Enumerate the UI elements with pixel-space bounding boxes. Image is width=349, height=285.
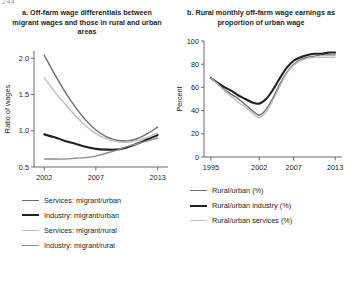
legend-line-swatch <box>190 205 207 207</box>
svg-text:Percent: Percent <box>175 87 184 112</box>
legend-item-label: Rural/urban industry (%) <box>212 201 291 210</box>
legend-item-label: Industry: migrant/urban <box>44 211 119 220</box>
svg-text:100: 100 <box>187 37 199 46</box>
panel-b-plot: 0204060801001995200220072013Percent <box>174 29 348 179</box>
svg-text:2.0: 2.0 <box>19 54 29 63</box>
legend-line-swatch <box>22 245 39 246</box>
svg-text:Ratio of wages: Ratio of wages <box>3 84 12 133</box>
panel-a: a. Off-farm wage differentials between m… <box>0 8 174 253</box>
legend-item-label: Services: migrant/urban <box>44 196 121 205</box>
chart-panels-container: a. Off-farm wage differentials between m… <box>0 8 349 253</box>
legend-item[interactable]: Services: migrant/urban <box>22 193 174 208</box>
legend-line-swatch <box>190 190 207 191</box>
svg-text:2007: 2007 <box>88 173 104 182</box>
svg-text:1.0: 1.0 <box>19 126 29 135</box>
svg-text:60: 60 <box>191 83 199 92</box>
legend-item-label: Rural/urban (%) <box>212 186 264 195</box>
svg-text:0.5: 0.5 <box>19 162 29 171</box>
legend-line-swatch <box>22 200 39 201</box>
chart-b-svg: 0204060801001995200220072013Percent <box>174 29 348 179</box>
panel-b: b. Rural monthly off-farm wage earnings … <box>174 8 348 253</box>
panel-a-legend: Services: migrant/urbanIndustry: migrant… <box>0 193 174 253</box>
legend-line-swatch <box>22 214 39 216</box>
legend-item[interactable]: Services: migrant/rural <box>22 223 174 238</box>
panel-b-legend: Rural/urban (%)Rural/urban industry (%)R… <box>174 183 348 228</box>
legend-item-label: Services: migrant/rural <box>44 226 117 235</box>
legend-line-swatch <box>22 230 39 231</box>
legend-item[interactable]: Rural/urban services (%) <box>190 213 348 228</box>
panel-b-title: b. Rural monthly off-farm wage earnings … <box>174 8 348 27</box>
legend-line-swatch <box>190 220 207 221</box>
svg-text:1.5: 1.5 <box>19 90 29 99</box>
legend-item-label: Rural/urban services (%) <box>212 216 292 225</box>
svg-text:2013: 2013 <box>150 173 166 182</box>
chart-a-svg: 0.51.01.52.0200220072013Ratio of wages <box>0 39 174 189</box>
legend-item-label: Industry: migrant/rural <box>44 241 115 250</box>
figure-number: 244 <box>2 0 15 5</box>
legend-item[interactable]: Rural/urban (%) <box>190 183 348 198</box>
panel-a-plot: 0.51.01.52.0200220072013Ratio of wages <box>0 39 174 189</box>
svg-text:2002: 2002 <box>36 173 52 182</box>
svg-text:20: 20 <box>191 130 199 139</box>
legend-item[interactable]: Industry: migrant/urban <box>22 208 174 223</box>
svg-text:2007: 2007 <box>286 163 302 172</box>
panel-a-title: a. Off-farm wage differentials between m… <box>0 8 174 37</box>
svg-text:2002: 2002 <box>251 163 267 172</box>
legend-item[interactable]: Industry: migrant/rural <box>22 238 174 253</box>
svg-text:2013: 2013 <box>327 163 343 172</box>
svg-text:40: 40 <box>191 106 199 115</box>
svg-text:1995: 1995 <box>203 163 219 172</box>
svg-text:0: 0 <box>195 153 199 162</box>
svg-text:80: 80 <box>191 60 199 69</box>
legend-item[interactable]: Rural/urban industry (%) <box>190 198 348 213</box>
